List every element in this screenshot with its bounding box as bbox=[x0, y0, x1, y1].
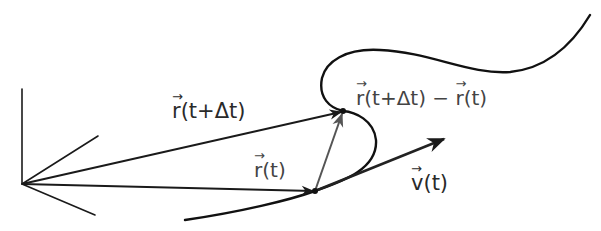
vector-displacement bbox=[315, 114, 342, 191]
vector-symbol-r: r bbox=[455, 88, 463, 108]
diagram-svg bbox=[0, 0, 601, 231]
label-r-t: r(t) bbox=[254, 160, 286, 180]
vector-symbol-r: r bbox=[254, 160, 262, 180]
axes bbox=[22, 89, 98, 215]
diagram-canvas: r(t+Δt) r(t+Δt) − r(t) r(t) v(t) bbox=[0, 0, 601, 231]
vector-r-t bbox=[22, 184, 313, 191]
point-t-plus-dt bbox=[340, 108, 346, 114]
label-v-t: v(t) bbox=[411, 173, 448, 194]
label-r-t-plus-dt: r(t+Δt) bbox=[172, 101, 245, 122]
vector-symbol-r: r bbox=[172, 101, 181, 122]
point-t bbox=[312, 188, 318, 194]
vector-symbol-r: r bbox=[356, 88, 364, 108]
axis-x bbox=[22, 184, 95, 215]
label-displacement: r(t+Δt) − r(t) bbox=[356, 88, 487, 108]
axis-y bbox=[22, 136, 98, 184]
vector-symbol-v: v bbox=[411, 173, 423, 194]
